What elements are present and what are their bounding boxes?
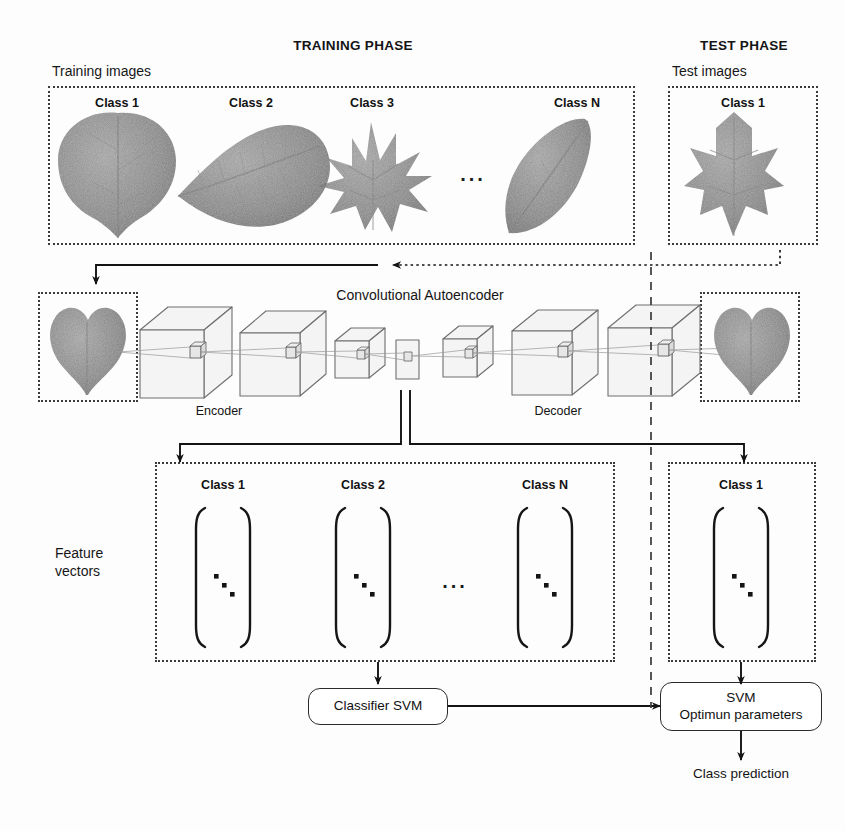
feature-vectors-ellipsis: ... xyxy=(442,570,468,593)
layer-dec-conv-1 xyxy=(443,326,493,377)
svm-box-line2: Optimun parameters xyxy=(679,707,802,724)
fv-training-class-label-2: Class 2 xyxy=(341,478,385,492)
layer-dec-conv-3 xyxy=(608,305,700,396)
encoder-label: Encoder xyxy=(196,404,243,418)
layer-enc-conv-2 xyxy=(240,311,326,396)
training-class-label-n: Class N xyxy=(554,96,600,110)
test-images-caption: Test images xyxy=(672,63,747,79)
layer-bottleneck xyxy=(396,340,419,379)
training-feature-vectors-panel xyxy=(155,462,615,662)
decoder-label: Decoder xyxy=(534,404,581,418)
training-class-label-3: Class 3 xyxy=(350,96,394,110)
autoencoder-input-frame xyxy=(38,292,138,402)
autoencoder-title: Convolutional Autoencoder xyxy=(336,287,503,303)
layer-enc-conv-3 xyxy=(335,328,385,378)
svm-box-line1: SVM xyxy=(726,690,755,707)
fv-test-class-label-1: Class 1 xyxy=(719,478,763,492)
fv-training-class-label-n: Class N xyxy=(522,478,568,492)
fv-training-class-label-1: Class 1 xyxy=(201,478,245,492)
autoencoder-output-frame xyxy=(700,292,800,402)
layer-dec-conv-2 xyxy=(512,310,598,395)
class-prediction-label: Class prediction xyxy=(693,766,789,781)
feature-vectors-label-line1: Feature xyxy=(55,545,103,563)
training-class-label-2: Class 2 xyxy=(229,96,273,110)
classifier-svm-box[interactable]: Classifier SVM xyxy=(308,688,448,725)
figure-canvas: TRAINING PHASE TEST PHASE Training image… xyxy=(0,0,845,831)
layer-enc-conv-1 xyxy=(140,307,232,398)
training-images-ellipsis: ... xyxy=(460,163,486,186)
arrow-bottleneck-split xyxy=(180,390,744,462)
arrow-test-to-autoencoder xyxy=(393,250,780,265)
feature-vectors-side-label: Feature vectors xyxy=(55,545,103,580)
receptive-field-connectors xyxy=(118,345,735,360)
training-phase-title: TRAINING PHASE xyxy=(293,38,413,53)
feature-vectors-label-line2: vectors xyxy=(55,563,103,581)
training-images-caption: Training images xyxy=(52,63,151,79)
test-feature-vectors-panel xyxy=(668,462,816,662)
svm-optimum-parameters-box[interactable]: SVM Optimun parameters xyxy=(660,682,822,731)
test-phase-title: TEST PHASE xyxy=(700,38,788,53)
test-class-label-1: Class 1 xyxy=(721,96,765,110)
arrow-train-to-autoencoder xyxy=(96,265,378,284)
training-class-label-1: Class 1 xyxy=(95,96,139,110)
